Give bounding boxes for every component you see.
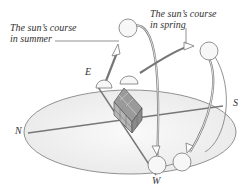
south-label: S <box>233 97 238 108</box>
sun-spring-noon <box>200 42 218 60</box>
west-label: W <box>152 175 160 186</box>
sunrise-summer-icon <box>96 80 112 88</box>
sun-spring-set <box>173 153 191 171</box>
summer-up-arrow-icon <box>112 44 120 56</box>
spring-course-label: The sun’s course in spring <box>150 8 216 30</box>
sun-path-diagram: The sun’s course in summer The sun’s cou… <box>0 0 246 186</box>
north-label: N <box>15 125 22 136</box>
east-label: E <box>85 66 91 77</box>
summer-course-label: The sun’s course in summer <box>10 22 76 44</box>
sun-summer-noon <box>119 19 137 37</box>
spring-right-arrow-icon <box>184 42 194 50</box>
sunrise-spring-icon <box>120 76 138 84</box>
sun-summer-set <box>148 156 166 174</box>
